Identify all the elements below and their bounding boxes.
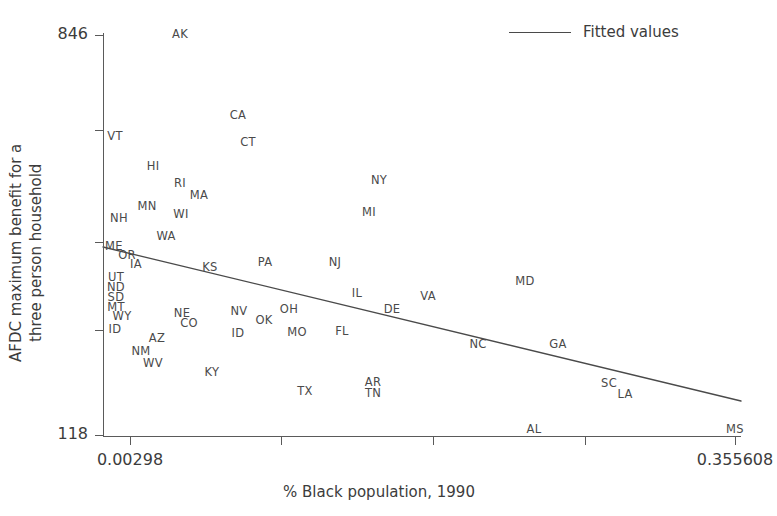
point-label-ny-10: NY <box>371 175 387 187</box>
x-tick-mark-0 <box>130 437 131 445</box>
point-label-ms-49: MS <box>726 424 744 436</box>
y-axis-title: AFDC maximum benefit for a three person … <box>7 53 47 453</box>
point-label-ia-15: IA <box>130 259 142 271</box>
point-label-ri-5: RI <box>174 178 186 190</box>
x-axis-title: % Black population, 1990 <box>0 483 758 501</box>
point-label-ks-22: KS <box>202 262 217 274</box>
y-tick-mark-1 <box>95 130 103 131</box>
point-label-mi-11: MI <box>362 207 376 219</box>
x-tick-label-0.00298: 0.00298 <box>50 452 210 468</box>
point-label-md-25: MD <box>515 276 534 288</box>
point-label-al-48: AL <box>527 424 542 436</box>
point-label-nv-31: NV <box>230 306 247 318</box>
y-axis-title-line1: AFDC maximum benefit for a <box>7 53 27 453</box>
point-label-wv-41: WV <box>143 358 163 370</box>
y-tick-label-118: 118 <box>57 426 88 442</box>
point-label-ga-37: GA <box>549 339 566 351</box>
point-label-tx-43: TX <box>297 386 313 398</box>
legend-line-swatch <box>509 32 571 33</box>
point-label-id-39: ID <box>232 328 245 340</box>
x-tick-mark-1 <box>281 437 282 445</box>
y-tick-mark-0 <box>95 35 103 36</box>
x-tick-label-0.355608: 0.355608 <box>655 452 777 468</box>
point-label-ok-33: OK <box>255 315 272 327</box>
y-axis-line <box>103 33 104 437</box>
point-label-oh-32: OH <box>280 304 298 316</box>
y-tick-mark-4 <box>95 435 103 436</box>
point-label-az-38: AZ <box>149 333 165 345</box>
point-label-va-27: VA <box>420 291 436 303</box>
point-label-la-47: LA <box>617 389 632 401</box>
point-label-wi-9: WI <box>173 209 188 221</box>
point-label-de-28: DE <box>384 304 401 316</box>
x-axis-line <box>103 436 741 437</box>
y-tick-mark-2 <box>95 242 103 243</box>
y-axis-title-line2: three person household <box>27 53 47 453</box>
point-label-mn-7: MN <box>137 201 156 213</box>
point-label-mo-34: MO <box>287 327 307 339</box>
point-label-ca-1: CA <box>230 110 247 122</box>
point-label-ma-6: MA <box>190 190 208 202</box>
y-tick-mark-3 <box>95 330 103 331</box>
point-label-co-30: CO <box>180 318 198 330</box>
point-label-hi-4: HI <box>147 161 160 173</box>
point-label-wa-12: WA <box>156 231 175 243</box>
x-tick-mark-3 <box>585 437 586 445</box>
point-label-tn-45: TN <box>365 388 381 400</box>
point-label-id-21: ID <box>109 324 122 336</box>
point-label-wy-20: WY <box>113 311 132 323</box>
point-label-ak-0: AK <box>172 29 188 41</box>
point-label-sc-46: SC <box>601 378 617 390</box>
point-label-nh-8: NH <box>110 213 128 225</box>
point-label-pa-23: PA <box>258 257 273 269</box>
legend-label-fitted-values: Fitted values <box>583 23 679 41</box>
x-tick-mark-2 <box>433 437 434 445</box>
point-label-fl-35: FL <box>335 326 349 338</box>
point-label-nj-24: NJ <box>329 257 342 269</box>
legend: Fitted values <box>509 22 679 42</box>
point-label-ct-2: CT <box>240 137 256 149</box>
y-tick-label-846: 846 <box>57 26 88 42</box>
point-label-nc-36: NC <box>469 339 486 351</box>
point-label-ky-42: KY <box>205 367 220 379</box>
point-label-vt-3: VT <box>107 131 123 143</box>
x-tick-mark-4 <box>735 437 736 445</box>
point-label-il-26: IL <box>352 288 362 300</box>
